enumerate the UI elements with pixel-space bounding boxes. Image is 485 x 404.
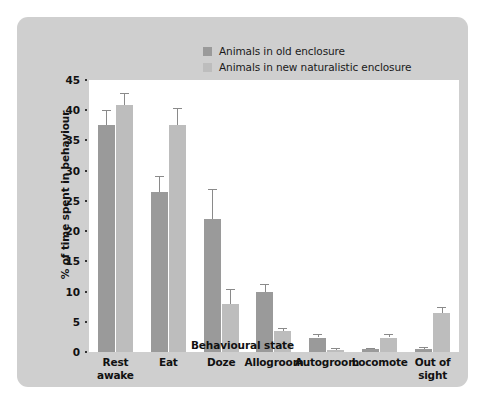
bar-old-enclosure — [151, 192, 168, 352]
chart-legend: Animals in old enclosure Animals in new … — [203, 44, 443, 76]
error-bar-cap — [260, 284, 269, 285]
plot-wrapper: 051015202530354045 RestawakeEatDozeAllog… — [89, 80, 459, 352]
bar-group — [248, 80, 301, 352]
legend-label-old-enclosure: Animals in old enclosure — [219, 45, 345, 57]
figure-canvas: Animals in old enclosure Animals in new … — [0, 0, 485, 404]
legend-item-old-enclosure: Animals in old enclosure — [203, 44, 443, 58]
legend-label-new-enclosure: Animals in new naturalistic enclosure — [219, 61, 411, 73]
error-bar-cap — [313, 334, 322, 335]
error-bar-cap — [384, 334, 393, 335]
y-tick-label: 5 — [29, 316, 89, 328]
legend-swatch-new-enclosure — [203, 63, 212, 72]
error-bar-line — [124, 93, 125, 105]
legend-item-new-enclosure: Animals in new naturalistic enclosure — [203, 60, 443, 74]
bar-group — [142, 80, 195, 352]
y-tick-label: 35 — [29, 134, 89, 146]
y-tick-label: 30 — [29, 165, 89, 177]
bar-new-enclosure — [116, 105, 133, 352]
error-bar-line — [265, 284, 266, 292]
y-tick-label: 20 — [29, 225, 89, 237]
error-bar-cap — [173, 108, 182, 109]
error-bar-line — [106, 110, 107, 125]
y-tick-label: 40 — [29, 104, 89, 116]
bar-group — [300, 80, 353, 352]
error-bar-cap — [155, 176, 164, 177]
chart-panel: Animals in old enclosure Animals in new … — [17, 17, 468, 387]
error-bar-line — [230, 289, 231, 304]
bar-old-enclosure — [204, 219, 221, 352]
error-bar-line — [159, 176, 160, 192]
error-bar-cap — [102, 110, 111, 111]
error-bar-cap — [226, 289, 235, 290]
x-axis-title: Behavioural state — [17, 339, 468, 351]
error-bar-cap — [120, 93, 129, 94]
x-tick-label-line: awake — [83, 369, 148, 382]
legend-swatch-old-enclosure — [203, 47, 212, 56]
error-bar-cap — [208, 189, 217, 190]
bar-group — [195, 80, 248, 352]
y-tick-label: 45 — [29, 74, 89, 86]
error-bar-cap — [278, 328, 287, 329]
x-tick-label-line: Out of — [400, 356, 465, 369]
bar-old-enclosure — [98, 125, 115, 352]
y-tick-label: 25 — [29, 195, 89, 207]
bar-new-enclosure — [169, 125, 186, 352]
error-bar-line — [212, 189, 213, 219]
error-bar-line — [177, 108, 178, 125]
error-bar-cap — [437, 307, 446, 308]
bar-group — [406, 80, 459, 352]
bar-group — [353, 80, 406, 352]
x-tick-label-line: sight — [400, 369, 465, 382]
y-tick-label: 15 — [29, 255, 89, 267]
bar-series-container — [89, 80, 459, 352]
y-tick-label: 10 — [29, 286, 89, 298]
x-tick-label: Out ofsight — [400, 356, 465, 381]
bar-group — [89, 80, 142, 352]
